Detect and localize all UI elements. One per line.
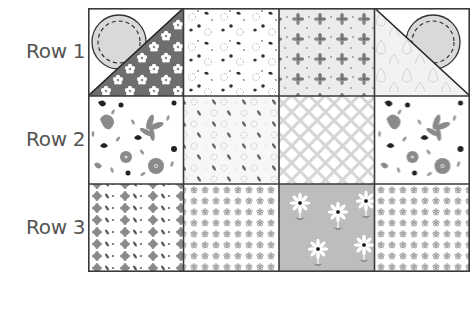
- tile-row1-col2: [184, 8, 280, 96]
- tile-row1-col4: [375, 8, 471, 96]
- tile-row2-col1: [88, 96, 184, 184]
- tile-row3-col1: [88, 184, 184, 272]
- tile-row2-col2: [184, 96, 280, 184]
- tile-row1-col1: [88, 8, 184, 96]
- tile-row1-col3: [279, 8, 375, 96]
- tile-row2-col3: [279, 96, 375, 184]
- tile-row3-col2: [184, 184, 280, 272]
- tile-row2-col4: [375, 96, 471, 184]
- row-label-3: Row 3: [26, 215, 88, 239]
- quilt-grid: [88, 8, 470, 272]
- tile-row3-col4: [375, 184, 471, 272]
- row-label-2: Row 2: [26, 127, 88, 151]
- tile-row3-col3: [279, 184, 376, 272]
- row-label-1: Row 1: [26, 39, 88, 63]
